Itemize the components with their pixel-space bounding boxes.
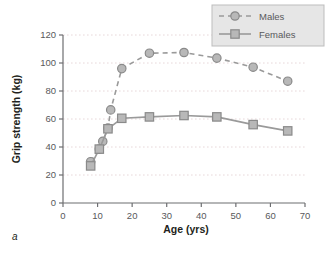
data-point-marker	[118, 64, 126, 72]
legend-label-males: Males	[259, 11, 285, 22]
y-tick-label-80: 80	[45, 85, 56, 96]
x-axis-ticks	[63, 203, 305, 207]
y-tick-label-120: 120	[40, 29, 56, 40]
figure-panel-a: 020406080100120 010203040506070 Grip str…	[0, 0, 329, 253]
data-point-marker	[213, 113, 221, 121]
data-point-marker	[284, 77, 292, 85]
data-point-marker	[104, 125, 112, 133]
y-tick-label-20: 20	[45, 169, 56, 180]
legend: Males Females	[212, 5, 324, 46]
data-point-marker	[249, 120, 257, 128]
data-point-marker	[145, 49, 153, 57]
data-point-marker	[107, 106, 115, 114]
data-point-marker	[284, 127, 292, 135]
legend-label-females: Females	[259, 29, 296, 40]
data-series-layer	[86, 48, 291, 170]
x-tick-label-60: 60	[265, 210, 276, 221]
x-tick-label-50: 50	[231, 210, 242, 221]
series-females	[86, 111, 291, 170]
x-axis-title: Age (yrs)	[163, 223, 209, 235]
x-tick-label-70: 70	[300, 210, 311, 221]
data-point-marker	[180, 48, 188, 56]
data-point-marker	[95, 145, 103, 153]
x-tick-label-30: 30	[161, 210, 172, 221]
x-tick-label-40: 40	[196, 210, 207, 221]
x-axis-tick-labels: 010203040506070	[60, 210, 310, 221]
x-tick-label-10: 10	[92, 210, 103, 221]
y-tick-label-40: 40	[45, 141, 56, 152]
data-point-marker	[86, 162, 94, 170]
y-tick-label-100: 100	[40, 57, 56, 68]
y-axis-title: Grip strength (kg)	[10, 75, 22, 164]
data-point-marker	[180, 111, 188, 119]
data-point-marker	[249, 63, 257, 71]
panel-letter: a	[12, 231, 18, 242]
x-tick-label-0: 0	[60, 210, 65, 221]
legend-marker-circle-icon	[231, 12, 239, 20]
x-tick-label-20: 20	[127, 210, 138, 221]
data-point-marker	[118, 114, 126, 122]
y-axis-tick-labels: 020406080100120	[40, 29, 56, 208]
grip-strength-line-chart: 020406080100120 010203040506070 Grip str…	[0, 0, 329, 253]
data-point-marker	[145, 113, 153, 121]
data-point-marker	[213, 54, 221, 62]
y-tick-label-0: 0	[51, 197, 56, 208]
legend-marker-square-icon	[231, 30, 239, 38]
y-tick-label-60: 60	[45, 113, 56, 124]
series-males	[86, 48, 291, 166]
